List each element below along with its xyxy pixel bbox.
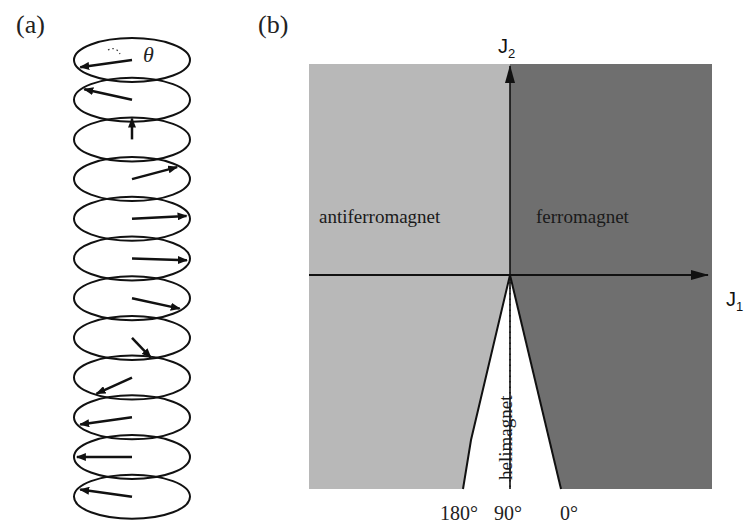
angle-tick-0: 0°: [560, 502, 578, 524]
spin-arrow: [80, 490, 132, 497]
ferromagnet-label: ferromagnet: [536, 206, 630, 227]
spin-arrow: [84, 89, 132, 99]
spin-arrow: [97, 378, 132, 394]
spin-arrow: [132, 338, 151, 358]
spin-arrow: [132, 298, 180, 308]
spin-arrow: [80, 417, 132, 424]
helimagnet-label: helimagnet: [495, 395, 516, 480]
theta-label: θ: [143, 42, 154, 67]
spin-arrow: [80, 60, 132, 67]
angle-tick-180: 180°: [440, 502, 478, 524]
phase-diagram: J1 J2 antiferromagnet ferromagnet helima…: [309, 35, 743, 524]
theta-angle-arc: [108, 49, 120, 54]
spin-arrow: [132, 259, 187, 261]
figure-canvas: θ J1 J2 antiferromagnet ferromagnet heli…: [0, 0, 751, 532]
j2-axis-label: J2: [498, 35, 515, 61]
spin-arrow: [132, 216, 187, 219]
angle-tick-90: 90°: [494, 502, 522, 524]
antiferromagnet-label: antiferromagnet: [319, 206, 441, 227]
spin-chain-diagram: θ: [74, 38, 190, 519]
j1-axis-label: J1: [726, 288, 743, 314]
spin-arrow: [132, 167, 177, 179]
